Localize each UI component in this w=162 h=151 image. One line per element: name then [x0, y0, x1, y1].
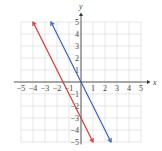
x-tick-label: −2	[53, 84, 62, 93]
x-tick-label: −3	[41, 84, 50, 93]
x-tick-label: 1	[91, 84, 95, 93]
x-tick-label: 2	[103, 84, 107, 93]
y-tick-label: 4	[75, 30, 79, 39]
x-axis-arrow-icon	[147, 80, 151, 84]
x-tick-label: 5	[139, 84, 143, 93]
coordinate-plane: xy−5−4−3−2−11234554321−1−2−3−4−5	[0, 0, 162, 151]
y-tick-label: 3	[75, 42, 79, 51]
y-tick-label: −5	[70, 138, 79, 147]
y-axis-label: y	[78, 2, 83, 11]
x-axis-label: x	[152, 78, 157, 87]
x-tick-label: 4	[127, 84, 131, 93]
x-tick-label: −4	[29, 84, 38, 93]
x-tick-label: 3	[115, 84, 119, 93]
y-axis-arrow-icon	[79, 12, 83, 16]
y-tick-label: −4	[70, 126, 79, 135]
y-tick-label: 5	[75, 18, 79, 27]
y-tick-label: −3	[70, 114, 79, 123]
x-tick-label: −5	[17, 84, 26, 93]
y-tick-label: 2	[75, 54, 79, 63]
y-tick-label: −1	[70, 90, 79, 99]
